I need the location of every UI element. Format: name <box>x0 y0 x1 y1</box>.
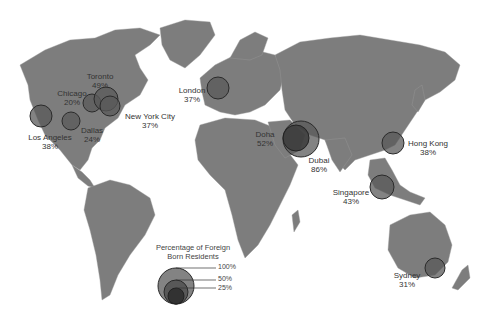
landmass-madagascar <box>292 210 300 232</box>
city-pct: 20% <box>54 98 90 107</box>
legend-circle-25 <box>168 288 184 304</box>
legend-title-line2: Born Residents <box>148 252 238 261</box>
city-name: Toronto <box>82 72 118 81</box>
city-name: Los Angeles <box>28 133 72 142</box>
city-name: Dallas <box>77 126 107 135</box>
label-dubai: Dubai 86% <box>304 156 334 174</box>
legend-title: Percentage of Foreign Born Residents <box>148 243 238 261</box>
city-name: London <box>176 86 208 95</box>
label-los-angeles: Los Angeles 38% <box>28 133 72 151</box>
label-hong-kong: Hong Kong 38% <box>406 139 450 157</box>
city-name: Doha <box>250 130 280 139</box>
bubble-new-york[interactable] <box>100 96 120 116</box>
city-pct: 24% <box>77 135 107 144</box>
legend-tick-100: 100% <box>218 263 236 270</box>
city-pct: 37% <box>122 121 178 130</box>
world-map <box>0 0 497 323</box>
city-pct: 43% <box>330 197 372 206</box>
bubble-hong-kong[interactable] <box>382 132 404 154</box>
legend-tick-25: 25% <box>218 284 232 291</box>
label-doha: Doha 52% <box>250 130 280 148</box>
label-singapore: Singapore 43% <box>330 188 372 206</box>
label-chicago: Chicago 20% <box>54 89 90 107</box>
city-name: Dubai <box>304 156 334 165</box>
bubble-doha[interactable] <box>283 125 309 151</box>
bubble-london[interactable] <box>207 77 229 99</box>
legend-tick-50: 50% <box>218 275 232 282</box>
city-name: Singapore <box>330 188 372 197</box>
label-london: London 37% <box>176 86 208 104</box>
landmass-south-america <box>84 180 155 300</box>
label-dallas: Dallas 24% <box>77 126 107 144</box>
city-pct: 52% <box>250 139 280 148</box>
label-sydney: Sydney 31% <box>392 271 422 289</box>
label-new-york: New York City 37% <box>122 112 178 130</box>
city-pct: 38% <box>28 142 72 151</box>
city-name: Chicago <box>54 89 90 98</box>
landmass-new-zealand <box>452 265 470 290</box>
label-toronto: Toronto 49% <box>82 72 118 90</box>
city-pct: 38% <box>406 148 450 157</box>
bubble-singapore[interactable] <box>370 175 394 199</box>
city-name: New York City <box>122 112 178 121</box>
bubble-los-angeles[interactable] <box>30 105 52 127</box>
landmass-central-america <box>72 165 95 188</box>
city-pct: 37% <box>176 95 208 104</box>
city-name: Sydney <box>392 271 422 280</box>
bubble-sydney[interactable] <box>425 258 445 278</box>
city-name: Hong Kong <box>406 139 450 148</box>
city-pct: 31% <box>392 280 422 289</box>
legend-title-line1: Percentage of Foreign <box>148 243 238 252</box>
landmass-greenland <box>160 20 215 68</box>
city-pct: 86% <box>304 165 334 174</box>
